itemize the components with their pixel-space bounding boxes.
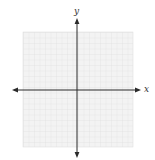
x-axis-left-arrow-icon [12, 88, 18, 93]
coordinate-plane-diagram: y x [0, 0, 155, 160]
coordinate-grid [0, 0, 155, 160]
y-axis-label: y [74, 7, 79, 16]
x-axis-right-arrow-icon [135, 88, 141, 93]
y-axis-down-arrow-icon [75, 152, 80, 158]
y-axis-up-arrow-icon [75, 18, 80, 24]
x-axis-label: x [144, 85, 149, 94]
